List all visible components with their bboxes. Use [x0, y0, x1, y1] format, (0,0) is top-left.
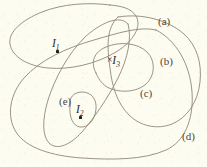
diagram-canvas	[0, 0, 207, 167]
curve-d	[10, 29, 192, 159]
curve-e	[44, 20, 130, 147]
curve-c	[93, 44, 153, 92]
curve-a	[10, 4, 138, 69]
region-diagram: (a) (b) (c) (d) (e) I1 I2 ×I3	[0, 0, 207, 167]
curve-e-inner	[70, 92, 96, 127]
